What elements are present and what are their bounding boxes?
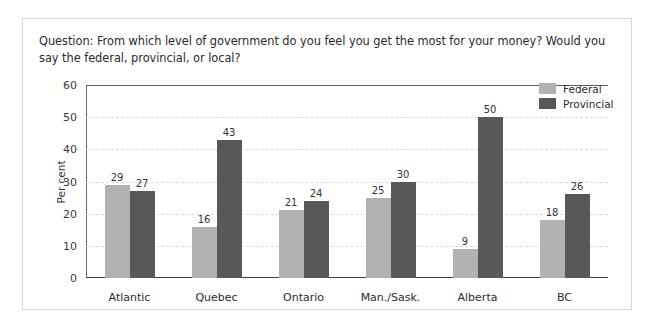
bar-value-label: 21 bbox=[285, 197, 298, 208]
legend-swatch-federal-icon bbox=[539, 83, 556, 94]
y-axis-tick-label: 10 bbox=[63, 239, 77, 252]
y-axis-tick-label: 20 bbox=[63, 207, 77, 220]
y-axis-tick-label: 50 bbox=[63, 111, 77, 124]
bar-value-label: 43 bbox=[223, 127, 236, 138]
x-axis-category-label: Atlantic bbox=[109, 291, 151, 304]
legend-item-federal: Federal bbox=[539, 81, 614, 96]
bar-federal: 16 bbox=[192, 227, 217, 278]
legend-item-provincial: Provincial bbox=[539, 96, 614, 111]
bar-value-label: 16 bbox=[198, 214, 211, 225]
bar-group: 950Alberta bbox=[434, 85, 521, 278]
y-axis-tick-label: 0 bbox=[70, 272, 77, 285]
bar-federal: 25 bbox=[366, 198, 391, 278]
bar-provincial: 24 bbox=[304, 201, 329, 278]
bar-provincial: 43 bbox=[217, 140, 242, 278]
bar-federal: 18 bbox=[540, 220, 565, 278]
bar-value-label: 24 bbox=[310, 188, 323, 199]
chart-question-title: Question: From which level of government… bbox=[39, 33, 611, 66]
x-axis-category-label: BC bbox=[557, 291, 572, 304]
bar-value-label: 26 bbox=[571, 181, 584, 192]
bar-value-label: 50 bbox=[484, 104, 497, 115]
chart-card: Question: From which level of government… bbox=[22, 18, 632, 310]
bar-value-label: 18 bbox=[546, 207, 559, 218]
y-axis-tick-label: 60 bbox=[63, 79, 77, 92]
bar-group: 2124Ontario bbox=[260, 85, 347, 278]
x-axis-category-label: Quebec bbox=[195, 291, 237, 304]
bar-value-label: 30 bbox=[397, 169, 410, 180]
bar-group: 1826BC bbox=[521, 85, 608, 278]
bar-group: 2530Man./Sask. bbox=[347, 85, 434, 278]
legend-label-federal: Federal bbox=[563, 83, 602, 95]
x-axis-category-label: Man./Sask. bbox=[361, 291, 421, 304]
bar-value-label: 25 bbox=[372, 185, 385, 196]
y-axis-tick-label: 30 bbox=[63, 175, 77, 188]
x-axis-category-label: Alberta bbox=[458, 291, 498, 304]
bar-federal: 29 bbox=[105, 185, 130, 278]
legend-swatch-provincial-icon bbox=[539, 98, 556, 109]
bar-value-label: 27 bbox=[136, 178, 149, 189]
bar-federal: 21 bbox=[279, 210, 304, 278]
chart-legend: Federal Provincial bbox=[539, 81, 614, 111]
bar-federal: 9 bbox=[453, 249, 478, 278]
legend-label-provincial: Provincial bbox=[563, 98, 614, 110]
bar-provincial: 30 bbox=[391, 182, 416, 279]
bar-value-label: 29 bbox=[111, 172, 124, 183]
bar-provincial: 26 bbox=[565, 194, 590, 278]
bar-provincial: 50 bbox=[478, 117, 503, 278]
bar-group: 1643Quebec bbox=[173, 85, 260, 278]
x-axis-category-label: Ontario bbox=[283, 291, 324, 304]
plot-area: Per cent 0102030405060 2927Atlantic1643Q… bbox=[86, 85, 608, 278]
bar-groups: 2927Atlantic1643Quebec2124Ontario2530Man… bbox=[86, 85, 608, 278]
bar-group: 2927Atlantic bbox=[86, 85, 173, 278]
bar-value-label: 9 bbox=[462, 236, 468, 247]
bar-provincial: 27 bbox=[130, 191, 155, 278]
y-axis-tick-label: 40 bbox=[63, 143, 77, 156]
